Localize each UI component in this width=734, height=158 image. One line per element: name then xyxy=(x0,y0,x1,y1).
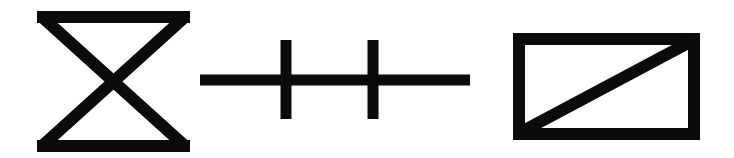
symbol-canvas xyxy=(0,0,734,158)
symbol-artboard xyxy=(0,0,734,158)
